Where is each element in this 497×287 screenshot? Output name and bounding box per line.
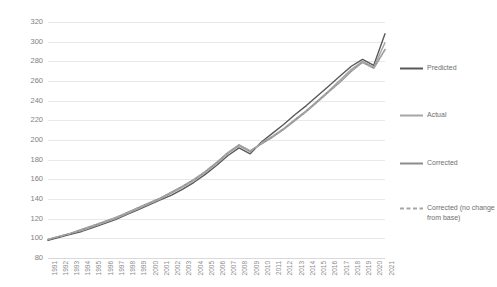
x-axis-tick-label: 2004 bbox=[197, 261, 204, 275]
x-axis-tick-label: 2012 bbox=[286, 261, 293, 275]
x-axis-tick-label: 1997 bbox=[118, 261, 125, 275]
chart-legend: PredictedActualCorrectedCorrected (no ch… bbox=[400, 55, 497, 240]
y-axis-tick-label: 320 bbox=[30, 18, 48, 26]
x-axis-tick-label: 1995 bbox=[95, 261, 102, 275]
series-line-corrected bbox=[48, 50, 385, 240]
series-line-corrected-no-change-from-base bbox=[48, 50, 385, 240]
legend-item-label: Corrected (no change from base) bbox=[427, 203, 497, 222]
x-axis-tick-label: 2021 bbox=[388, 261, 395, 275]
plot-area: 32030028026024022020018016014012010080 bbox=[48, 22, 385, 258]
y-axis-tick-label: 280 bbox=[30, 57, 48, 65]
x-axis-tick-label: 1991 bbox=[51, 261, 58, 275]
legend-item-label: Corrected bbox=[427, 158, 458, 168]
legend-swatch-line-icon bbox=[400, 111, 423, 120]
x-axis-tick-label: 2003 bbox=[185, 261, 192, 275]
x-axis-tick-label: 1992 bbox=[62, 261, 69, 275]
x-axis-tick-label: 2018 bbox=[354, 261, 361, 275]
x-axis-tick-label: 2014 bbox=[309, 261, 316, 275]
x-axis-tick-label: 2001 bbox=[163, 261, 170, 275]
x-axis-tick-label: 2010 bbox=[264, 261, 271, 275]
series-layer bbox=[48, 22, 385, 258]
x-axis-tick-label: 2017 bbox=[343, 261, 350, 275]
x-axis-ticks: 1991199219931994199519961997199819992000… bbox=[48, 259, 385, 287]
legend-swatch-line-icon bbox=[400, 159, 423, 168]
x-axis-tick-label: 2007 bbox=[230, 261, 237, 275]
y-axis-tick-label: 100 bbox=[30, 234, 48, 242]
x-axis-tick-label: 2016 bbox=[331, 261, 338, 275]
x-axis-tick-label: 2006 bbox=[219, 261, 226, 275]
x-axis-tick-label: 1996 bbox=[107, 261, 114, 275]
x-axis-tick-label: 2019 bbox=[365, 261, 372, 275]
x-axis-tick-label: 2011 bbox=[275, 261, 282, 275]
x-axis-tick-label: 1998 bbox=[129, 261, 136, 275]
x-axis-tick-label: 2005 bbox=[208, 261, 215, 275]
line-chart: 32030028026024022020018016014012010080 1… bbox=[0, 0, 497, 287]
y-axis-tick-label: 120 bbox=[30, 215, 48, 223]
y-axis-tick-label: 80 bbox=[35, 254, 48, 262]
x-axis-tick-label: 1999 bbox=[140, 261, 147, 275]
x-axis-tick-label: 2000 bbox=[152, 261, 159, 275]
legend-item[interactable]: Actual bbox=[400, 110, 497, 120]
y-axis-tick-label: 180 bbox=[30, 156, 48, 164]
y-axis-tick-label: 300 bbox=[30, 38, 48, 46]
legend-item[interactable]: Corrected bbox=[400, 158, 497, 168]
x-axis-tick-label: 2020 bbox=[376, 261, 383, 275]
x-axis-tick-label: 2002 bbox=[174, 261, 181, 275]
series-line-predicted bbox=[48, 34, 385, 241]
x-axis-tick-label: 2015 bbox=[320, 261, 327, 275]
x-axis-tick-label: 2009 bbox=[253, 261, 260, 275]
y-axis-tick-label: 240 bbox=[30, 97, 48, 105]
y-axis-tick-label: 140 bbox=[30, 195, 48, 203]
y-axis-tick-label: 160 bbox=[30, 175, 48, 183]
legend-item[interactable]: Predicted bbox=[400, 63, 497, 73]
y-axis-tick-label: 220 bbox=[30, 116, 48, 124]
legend-item-label: Actual bbox=[427, 110, 446, 120]
legend-item-label: Predicted bbox=[427, 63, 457, 73]
x-axis-tick-label: 1993 bbox=[73, 261, 80, 275]
legend-swatch-line-icon bbox=[400, 64, 423, 73]
legend-swatch-line-icon bbox=[400, 204, 423, 213]
x-axis-tick-label: 2008 bbox=[241, 261, 248, 275]
legend-item[interactable]: Corrected (no change from base) bbox=[400, 203, 497, 222]
y-axis-tick-label: 260 bbox=[30, 77, 48, 85]
y-axis-tick-label: 200 bbox=[30, 136, 48, 144]
x-axis-tick-label: 1994 bbox=[84, 261, 91, 275]
series-line-actual bbox=[48, 43, 385, 240]
x-axis-tick-label: 2013 bbox=[298, 261, 305, 275]
